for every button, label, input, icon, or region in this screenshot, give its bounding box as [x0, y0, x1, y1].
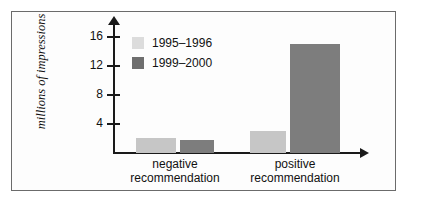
y-axis-tick-label: 8 — [73, 88, 103, 100]
category-label-line: recommendation — [225, 171, 365, 185]
y-axis-tick — [107, 123, 120, 125]
y-axis-arrowhead-icon — [108, 16, 120, 25]
x-axis-category-label: positiverecommendation — [225, 157, 365, 185]
bar — [290, 44, 340, 153]
y-axis-tick — [107, 94, 120, 96]
plot-area: 481216 millions of impressions 1995–1996… — [12, 12, 397, 192]
y-axis-tick-label: 16 — [73, 30, 103, 42]
y-axis-tick-label: 4 — [73, 117, 103, 129]
category-label-line: positive — [225, 157, 365, 171]
legend-swatch-dark-icon — [132, 57, 144, 69]
y-axis-tick-label: 12 — [73, 59, 103, 71]
chart-frame-border: 481216 millions of impressions 1995–1996… — [11, 11, 396, 191]
y-axis-line — [113, 24, 115, 154]
y-axis-tick — [107, 65, 120, 67]
chart-legend: 1995–1996 1999–2000 — [132, 36, 212, 76]
legend-item: 1995–1996 — [132, 36, 212, 49]
bar — [136, 138, 176, 153]
legend-item: 1999–2000 — [132, 56, 212, 69]
legend-item-label: 1999–2000 — [152, 56, 212, 70]
y-axis-tick — [107, 36, 120, 38]
figure-container: 481216 millions of impressions 1995–1996… — [0, 0, 438, 209]
legend-item-label: 1995–1996 — [152, 36, 212, 50]
bar — [250, 131, 286, 153]
x-axis-category-label: negativerecommendation — [105, 157, 245, 185]
category-label-line: negative — [105, 157, 245, 171]
y-axis-title: millions of impressions — [34, 12, 49, 132]
legend-swatch-light-icon — [132, 37, 144, 49]
bar — [180, 140, 214, 153]
category-label-line: recommendation — [105, 171, 245, 185]
